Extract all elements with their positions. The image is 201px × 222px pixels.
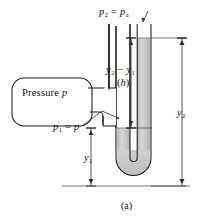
label-y1: y1 [84, 153, 92, 164]
manometer-figure: p2 = pa y2 − y1 (h) Pressure p p1 = p y1… [0, 0, 201, 222]
reservoir-vessel [12, 78, 92, 126]
figure-caption: (a) [121, 201, 132, 211]
label-y2: y2 [177, 108, 185, 119]
label-h-alias: (h) [117, 78, 129, 89]
label-p1-equals-p: p1 = p [53, 122, 79, 133]
fluid-column [117, 38, 150, 186]
label-p2-equals-pa: p2 = pa [99, 7, 129, 18]
left-limb-walls [116, 24, 130, 128]
manometer-diagram-svg [0, 0, 201, 222]
label-reservoir-pressure: Pressure p [22, 88, 67, 99]
tube-open-tops [114, 18, 118, 26]
leader-p2 [141, 11, 148, 22]
label-y2-minus-y1: y2 − y1 [106, 65, 135, 76]
